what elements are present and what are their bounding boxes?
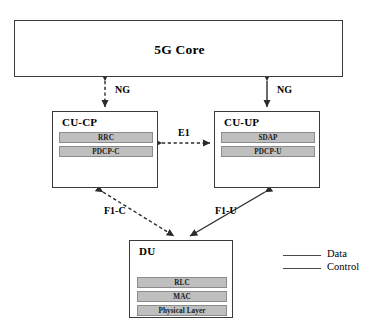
node-5g-core: 5G Core — [14, 20, 343, 77]
edge-label-ng-data: NG — [277, 84, 292, 95]
layer-bar-sdap: SDAP — [221, 132, 315, 143]
edge-label-ng-control: NG — [115, 84, 130, 95]
legend-line-control — [283, 268, 321, 269]
edge-label-f1-u: F1-U — [215, 205, 237, 216]
node-cu-cp: CU-CP RRC PDCP-C — [52, 111, 158, 188]
legend-label-control: Control — [327, 261, 359, 272]
legend-line-data — [283, 255, 321, 256]
node-du: DU RLC MAC Physical Layer — [129, 240, 233, 318]
layer-bar-physical-layer: Physical Layer — [137, 305, 227, 316]
legend-label-data: Data — [327, 248, 347, 259]
node-cu-up-label: CU-UP — [224, 116, 259, 128]
legend: Data Control — [283, 249, 373, 275]
layer-bar-pdcp-u: PDCP-U — [221, 146, 315, 157]
edge-label-f1-c: F1-C — [104, 205, 126, 216]
layer-bar-pdcp-c: PDCP-C — [59, 146, 153, 157]
node-cu-up: CU-UP SDAP PDCP-U — [214, 111, 320, 188]
node-5g-core-label: 5G Core — [15, 21, 344, 78]
diagram-canvas: 5G Core CU-CP RRC PDCP-C CU-UP SDAP PDCP… — [0, 0, 377, 336]
edge-label-e1: E1 — [178, 127, 190, 138]
layer-bar-rrc: RRC — [59, 132, 153, 143]
layer-bar-mac: MAC — [137, 291, 227, 302]
node-du-label: DU — [139, 245, 155, 257]
legend-item-control: Control — [283, 262, 373, 275]
layer-bar-rlc: RLC — [137, 277, 227, 288]
node-cu-cp-label: CU-CP — [62, 116, 97, 128]
